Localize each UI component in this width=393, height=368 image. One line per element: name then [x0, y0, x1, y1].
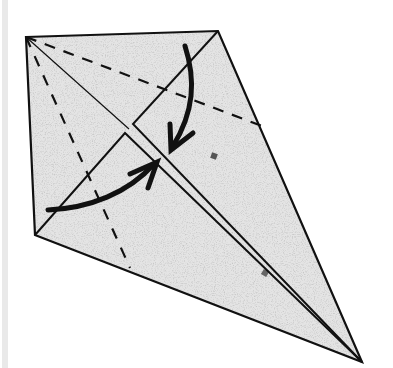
origami-fold-diagram [0, 0, 393, 368]
